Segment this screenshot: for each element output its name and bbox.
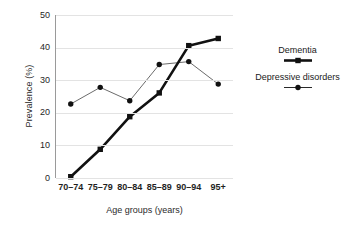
x-axis-title: Age groups (years) [56,205,233,215]
y-tick-label: 40 [28,43,50,52]
data-point [127,114,132,119]
x-tick-label: 95+ [211,182,226,192]
x-axis-tick-labels: 70–7475–7980–8485–8990–9495+ [56,182,233,196]
data-point [157,90,162,95]
x-tick-label: 70–74 [58,182,83,192]
chart-figure: Prevalence (%) 01020304050 70–7475–7980–… [0,0,355,231]
gridline [56,80,233,81]
gridline [56,145,233,146]
gridline [56,178,233,179]
plot-area [56,15,233,178]
data-point [216,81,221,86]
y-axis-tick-labels: 01020304050 [28,0,50,231]
series-line-depressive-disorders [71,62,219,104]
legend-swatch-circle-icon [240,83,355,92]
legend-label: Dementia [240,45,355,56]
gridline [56,113,233,114]
data-point [98,147,103,152]
gridline [56,48,233,49]
legend-swatch-square-icon [240,56,355,65]
data-point [68,101,73,106]
y-tick-label: 20 [28,108,50,117]
legend-label: Depressive disorders [240,72,355,83]
y-tick-label: 30 [28,76,50,85]
x-tick-label: 85–89 [147,182,172,192]
x-tick-label: 80–84 [117,182,142,192]
gridline [56,15,233,16]
data-point [127,98,132,103]
y-tick-label: 50 [28,11,50,20]
legend-entry: Dementia [240,45,355,65]
chart-legend: DementiaDepressive disorders [240,45,355,99]
data-point [186,59,191,64]
series-line-dementia [71,38,219,176]
data-point [216,36,221,41]
data-point [157,62,162,67]
data-point [98,85,103,90]
y-tick-label: 10 [28,141,50,150]
x-tick-label: 90–94 [176,182,201,192]
legend-entry: Depressive disorders [240,72,355,92]
x-tick-label: 75–79 [88,182,113,192]
y-tick-label: 0 [28,174,50,183]
series-layer [56,15,233,178]
